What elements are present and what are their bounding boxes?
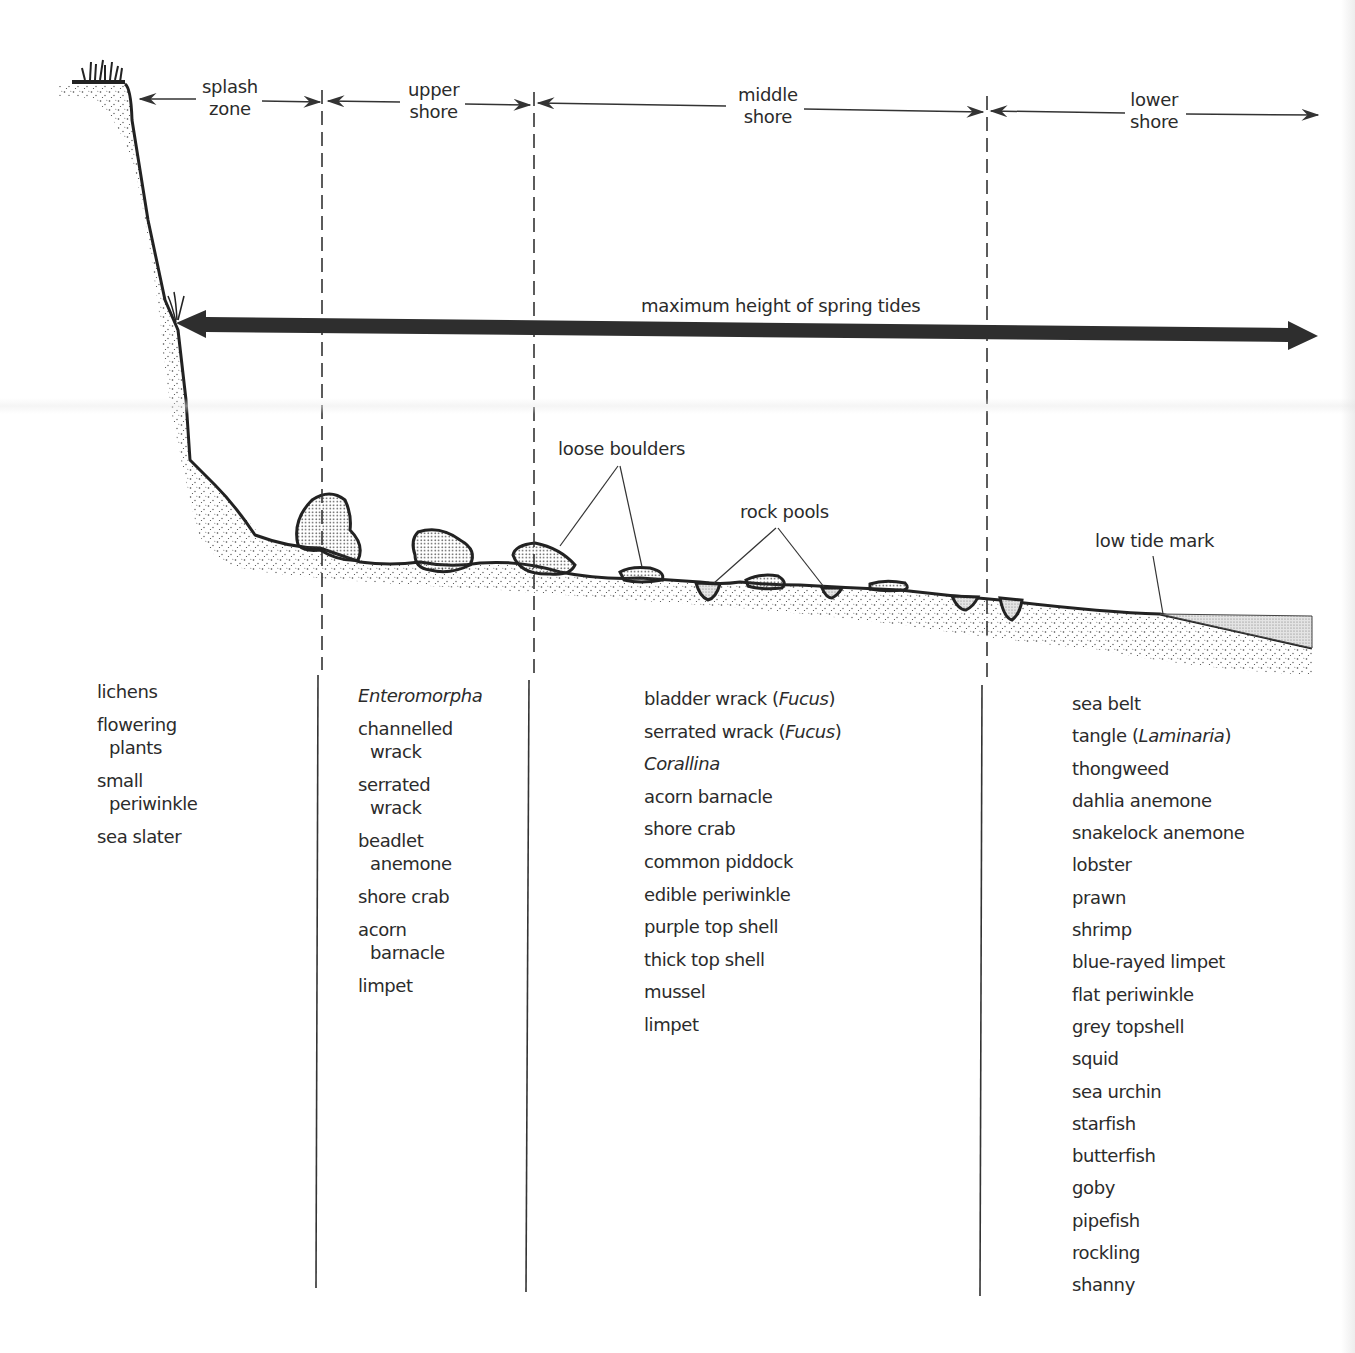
- species-item: goby: [1072, 1172, 1244, 1204]
- species-item: thick top shell: [644, 944, 841, 977]
- species-item: limpet: [358, 974, 482, 997]
- page-fold-shadow: [0, 398, 1355, 414]
- species-item: common piddock: [644, 846, 841, 879]
- species-item: bladder wrack (Fucus): [644, 683, 841, 716]
- upper-shore-species: Enteromorpha channelledwrack serratedwra…: [358, 684, 482, 1007]
- species-item: mussel: [644, 976, 841, 1009]
- zone-label-line: zone: [202, 98, 258, 120]
- species-item: acorn barnacle: [644, 781, 841, 814]
- species-item: sea urchin: [1072, 1076, 1244, 1108]
- species-item: limpet: [644, 1009, 841, 1042]
- species-item: lobster: [1072, 849, 1244, 881]
- species-item: lichens: [97, 680, 198, 703]
- species-item: shore crab: [358, 885, 482, 908]
- species-item: thongweed: [1072, 753, 1244, 785]
- species-item: serratedwrack: [358, 773, 482, 819]
- zone-label-splash: splash zone: [198, 76, 262, 120]
- species-item: grey topshell: [1072, 1011, 1244, 1043]
- species-item: floweringplants: [97, 713, 198, 759]
- species-item: blue-rayed limpet: [1072, 946, 1244, 978]
- species-item: prawn: [1072, 882, 1244, 914]
- grass-tuft-icon: [72, 60, 125, 82]
- species-item: squid: [1072, 1043, 1244, 1075]
- species-item: acornbarnacle: [358, 918, 482, 964]
- zone-label-line: upper: [408, 79, 459, 101]
- zone-label-line: splash: [202, 76, 258, 98]
- species-item: serrated wrack (Fucus): [644, 716, 841, 749]
- rock-pools-label: rock pools: [740, 501, 829, 523]
- species-item: Corallina: [644, 748, 841, 781]
- species-item: Enteromorpha: [358, 684, 482, 707]
- species-item: flat periwinkle: [1072, 979, 1244, 1011]
- species-item: butterfish: [1072, 1140, 1244, 1172]
- spring-tides-label: maximum height of spring tides: [641, 295, 920, 317]
- zone-label-lower: lower shore: [1126, 89, 1182, 133]
- zone-label-line: middle: [738, 84, 798, 106]
- lower-shore-species: sea belt tangle (Laminaria) thongweed da…: [1072, 688, 1244, 1302]
- loose-boulders-label: loose boulders: [558, 438, 685, 460]
- zone-label-line: shore: [408, 101, 459, 123]
- species-item: rockling: [1072, 1237, 1244, 1269]
- zone-label-line: lower: [1130, 89, 1178, 111]
- species-item: dahlia anemone: [1072, 785, 1244, 817]
- species-item: starfish: [1072, 1108, 1244, 1140]
- species-item: smallperiwinkle: [97, 769, 198, 815]
- page-edge-shadow: [1341, 0, 1355, 1353]
- species-item: beadletanemone: [358, 829, 482, 875]
- species-item: shrimp: [1072, 914, 1244, 946]
- species-item: channelledwrack: [358, 717, 482, 763]
- zone-label-upper: upper shore: [404, 79, 463, 123]
- species-item: purple top shell: [644, 911, 841, 944]
- species-item: shanny: [1072, 1269, 1244, 1301]
- species-item: shore crab: [644, 813, 841, 846]
- splash-zone-species: lichens floweringplants smallperiwinkle …: [97, 680, 198, 858]
- species-item: sea slater: [97, 825, 198, 848]
- shoreline-profile: [58, 60, 1312, 675]
- species-item: pipefish: [1072, 1205, 1244, 1237]
- zone-label-line: shore: [1130, 111, 1178, 133]
- species-item: sea belt: [1072, 688, 1244, 720]
- species-item: tangle (Laminaria): [1072, 720, 1244, 752]
- zone-label-line: shore: [738, 106, 798, 128]
- species-item: snakelock anemone: [1072, 817, 1244, 849]
- low-tide-label: low tide mark: [1095, 530, 1214, 552]
- middle-shore-species: bladder wrack (Fucus) serrated wrack (Fu…: [644, 683, 841, 1042]
- species-item: edible periwinkle: [644, 879, 841, 912]
- zone-label-middle: middle shore: [734, 84, 802, 128]
